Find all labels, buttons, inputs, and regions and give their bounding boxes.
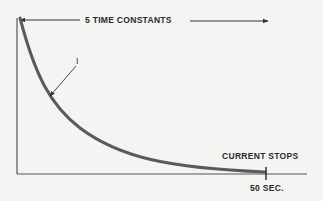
time-constants-label: 5 TIME CONSTANTS <box>85 15 172 25</box>
current-pointer-arrow <box>50 66 76 96</box>
diagram-canvas <box>0 0 323 201</box>
time-constant-diagram: 5 TIME CONSTANTS I CURRENT STOPS 50 SEC. <box>0 0 323 201</box>
time-label: 50 SEC. <box>250 183 284 193</box>
current-stops-label: CURRENT STOPS <box>222 151 298 161</box>
decay-curve <box>20 18 265 172</box>
current-label: I <box>76 56 79 66</box>
